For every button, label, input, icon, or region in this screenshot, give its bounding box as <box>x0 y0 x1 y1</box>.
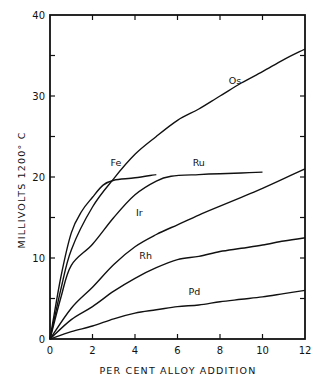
x-tick-label: 0 <box>47 345 53 356</box>
label-rh: Rh <box>139 250 152 261</box>
y-tick-label: 40 <box>32 10 45 21</box>
label-fe: Fe <box>110 157 121 168</box>
x-tick-label: 4 <box>132 345 138 356</box>
x-tick-label: 2 <box>89 345 95 356</box>
curve-ir <box>50 169 305 339</box>
label-os: Os <box>229 75 241 86</box>
x-axis-title: PER CENT ALLOY ADDITION <box>99 365 256 376</box>
label-ru: Ru <box>193 157 205 168</box>
y-tick-label: 0 <box>39 334 45 345</box>
curve-os <box>50 49 305 339</box>
thermocouple-emf-chart: 024681012010203040 OsFeRuIrRhPd PER CENT… <box>0 0 317 383</box>
x-tick-label: 6 <box>174 345 180 356</box>
x-tick-label: 10 <box>256 345 269 356</box>
y-axis-title: MILLIVOLTS 1200° C <box>16 131 27 248</box>
curve-rh <box>50 238 305 339</box>
label-pd: Pd <box>189 286 201 297</box>
y-tick-label: 30 <box>32 91 45 102</box>
curve-ru <box>50 172 263 339</box>
series-labels: OsFeRuIrRhPd <box>110 75 241 297</box>
curve-pd <box>50 290 305 339</box>
series-curves <box>50 49 305 339</box>
x-tick-label: 12 <box>299 345 312 356</box>
y-tick-label: 10 <box>32 253 45 264</box>
y-tick-label: 20 <box>32 172 45 183</box>
x-tick-label: 8 <box>217 345 223 356</box>
label-ir: Ir <box>136 207 143 218</box>
